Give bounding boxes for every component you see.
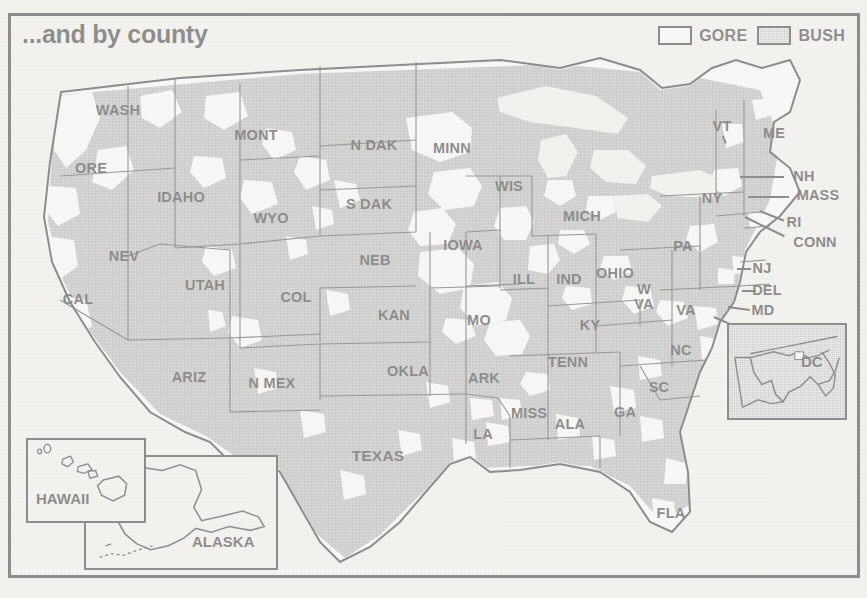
- state-label-idaho: IDAHO: [157, 190, 205, 205]
- hawaii-outline: [28, 440, 144, 521]
- legend-label-bush: BUSH: [798, 27, 845, 45]
- dc-outline: [729, 325, 845, 418]
- state-label-ny: NY: [702, 191, 723, 206]
- state-label-ga: GA: [614, 405, 636, 420]
- state-label-ri: RI: [787, 215, 802, 230]
- legend-entry-bush: BUSH: [757, 26, 845, 45]
- state-label-conn: CONN: [793, 235, 837, 250]
- state-label-vt: VT: [713, 119, 732, 134]
- alaska-label: ALASKA: [192, 533, 255, 550]
- state-label-ndak: N DAK: [351, 138, 398, 153]
- state-label-utah: UTAH: [185, 278, 225, 293]
- state-label-ariz: ARIZ: [172, 370, 207, 385]
- state-label-ore: ORE: [75, 161, 107, 176]
- state-label-sdak: S DAK: [346, 197, 392, 212]
- state-label-kan: KAN: [378, 308, 410, 323]
- state-label-ark: ARK: [468, 371, 500, 386]
- state-label-me: ME: [763, 126, 785, 141]
- leader-nj: [737, 268, 751, 270]
- state-label-md: MD: [752, 303, 775, 318]
- state-label-ohio: OHIO: [596, 266, 634, 281]
- state-label-sc: SC: [649, 380, 670, 395]
- legend-entry-gore: GORE: [658, 26, 747, 45]
- dc-inset: DC: [727, 323, 847, 420]
- state-label-nj: NJ: [753, 261, 772, 276]
- state-label-mass: MASS: [797, 188, 840, 203]
- state-label-nc: NC: [670, 343, 691, 358]
- state-label-ala: ALA: [555, 417, 585, 432]
- state-label-pa: PA: [673, 239, 692, 254]
- state-label-miss: MISS: [511, 406, 547, 421]
- state-label-la: LA: [473, 427, 493, 442]
- leader-mass: [748, 196, 789, 198]
- state-label-col: COL: [280, 290, 311, 305]
- state-label-neb: NEB: [359, 253, 390, 268]
- gore-swatch-icon: [658, 26, 692, 45]
- state-label-mont: MONT: [234, 128, 278, 143]
- hawaii-inset: HAWAII: [26, 438, 146, 523]
- page-title: ...and by county: [22, 20, 208, 49]
- state-label-fla: FLA: [657, 506, 686, 521]
- state-label-del: DEL: [752, 283, 782, 298]
- state-label-mich: MICH: [563, 209, 601, 224]
- legend: GORE BUSH: [658, 26, 845, 45]
- state-label-okla: OKLA: [387, 364, 429, 379]
- state-label-nmex: N MEX: [249, 376, 296, 391]
- state-label-ky: KY: [580, 318, 601, 333]
- bush-swatch-icon: [757, 26, 791, 45]
- state-label-wva: WVA: [634, 282, 653, 312]
- state-label-tenn: TENN: [548, 355, 588, 370]
- state-label-wyo: WYO: [253, 211, 288, 226]
- state-label-va: VA: [676, 303, 695, 318]
- state-label-nev: NEV: [109, 249, 139, 264]
- state-label-ill: ILL: [513, 272, 535, 287]
- state-label-wash: WASH: [96, 103, 140, 118]
- state-label-texas: TEXAS: [352, 448, 405, 464]
- state-label-nh: NH: [793, 169, 814, 184]
- hawaii-label: HAWAII: [36, 490, 89, 507]
- state-label-ind: IND: [556, 272, 582, 287]
- state-label-iowa: IOWA: [443, 238, 482, 253]
- state-label-wis: WIS: [495, 179, 523, 194]
- leader-nh: [740, 176, 784, 178]
- state-label-minn: MINN: [433, 141, 471, 156]
- dc-label: DC: [801, 353, 823, 370]
- state-label-mo: MO: [467, 313, 491, 328]
- legend-label-gore: GORE: [699, 27, 747, 45]
- state-label-cal: CAL: [63, 292, 93, 307]
